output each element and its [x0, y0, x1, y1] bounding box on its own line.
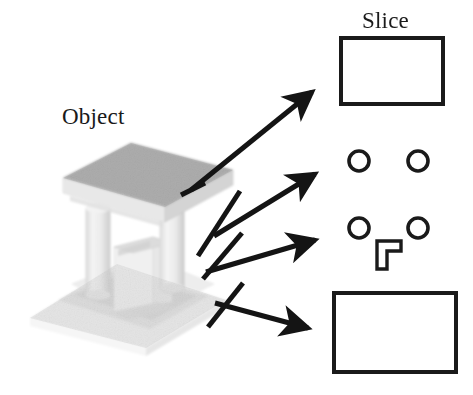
slice-2-circle-right	[408, 151, 428, 171]
object-slice-diagram	[0, 0, 473, 395]
slice-3-circle-left	[349, 218, 369, 238]
slice-3-circle-right	[408, 218, 428, 238]
slice-4-rectangle	[334, 293, 456, 372]
arrow-4	[208, 283, 308, 328]
object-label: Object	[62, 104, 125, 130]
diagram-canvas: Object Slice	[0, 0, 473, 395]
slice-group	[334, 38, 456, 372]
slice-label: Slice	[362, 8, 409, 34]
slice-3-circles-and-L	[349, 218, 428, 269]
arrow-1-shaft	[191, 92, 312, 190]
arrow-3	[203, 233, 315, 279]
arrow-4-shaft	[215, 303, 308, 328]
slice-2-two-circles	[349, 151, 428, 171]
slice-2-circle-left	[349, 151, 369, 171]
slice-1-rectangle	[341, 38, 443, 104]
slice-3-l-shape	[377, 241, 401, 269]
arrow-1	[181, 92, 312, 195]
